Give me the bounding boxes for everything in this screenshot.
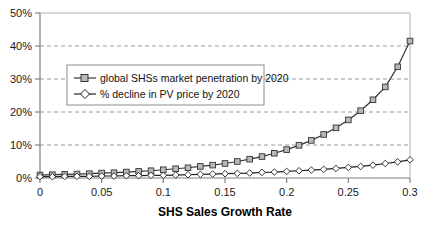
square-marker xyxy=(284,147,290,153)
chart-container: 50% 40% 30% 20% 10% 0% 0 0.05 0.1 0.15 0… xyxy=(0,0,424,234)
x-axis-label-005: 0.05 xyxy=(91,186,112,198)
y-axis-label-40: 40% xyxy=(10,40,32,52)
y-axis-tick-labels: 50% 40% 30% 20% 10% 0% xyxy=(10,7,32,184)
square-marker xyxy=(321,132,327,138)
x-axis-label-015: 0.15 xyxy=(214,186,235,198)
square-marker xyxy=(333,125,339,131)
square-marker xyxy=(210,162,216,168)
square-marker xyxy=(247,156,253,162)
square-marker xyxy=(198,164,204,170)
line-chart: 50% 40% 30% 20% 10% 0% 0 0.05 0.1 0.15 0… xyxy=(0,0,424,234)
square-marker xyxy=(370,97,376,103)
square-marker xyxy=(309,138,315,144)
legend-item-square: global SHSs market penetration by 2020 xyxy=(74,72,289,84)
x-axis-label-01: 0.1 xyxy=(156,186,171,198)
y-axis-label-20: 20% xyxy=(10,106,32,118)
square-marker xyxy=(185,165,191,171)
square-marker xyxy=(358,108,364,114)
y-axis-label-30: 30% xyxy=(10,73,32,85)
square-marker-icon xyxy=(81,75,88,82)
square-marker xyxy=(235,159,241,165)
square-marker xyxy=(259,154,265,160)
square-marker xyxy=(222,161,228,167)
square-marker xyxy=(173,166,179,172)
square-marker xyxy=(407,38,413,44)
x-axis-label-03: 0.3 xyxy=(402,186,417,198)
y-axis-label-0: 0% xyxy=(16,172,32,184)
legend-label-2: % decline in PV price by 2020 xyxy=(100,88,240,100)
square-marker xyxy=(272,150,278,156)
x-axis-ticks xyxy=(40,178,410,183)
square-marker xyxy=(395,64,401,70)
y-axis-label-10: 10% xyxy=(10,139,32,151)
square-marker xyxy=(296,143,302,149)
y-axis-ticks xyxy=(35,13,40,178)
x-axis-label-02: 0.2 xyxy=(279,186,294,198)
x-axis-tick-labels: 0 0.05 0.1 0.15 0.2 0.25 0.3 xyxy=(37,186,418,198)
x-axis-label-0: 0 xyxy=(37,186,43,198)
legend-label-1: global SHSs market penetration by 2020 xyxy=(100,72,289,84)
square-marker xyxy=(346,117,352,123)
x-axis-label-025: 0.25 xyxy=(338,186,359,198)
x-axis-title: SHS Sales Growth Rate xyxy=(158,205,292,219)
chart-legend: global SHSs market penetration by 2020 %… xyxy=(67,65,289,105)
y-axis-label-50: 50% xyxy=(10,7,32,19)
square-marker xyxy=(383,84,389,90)
